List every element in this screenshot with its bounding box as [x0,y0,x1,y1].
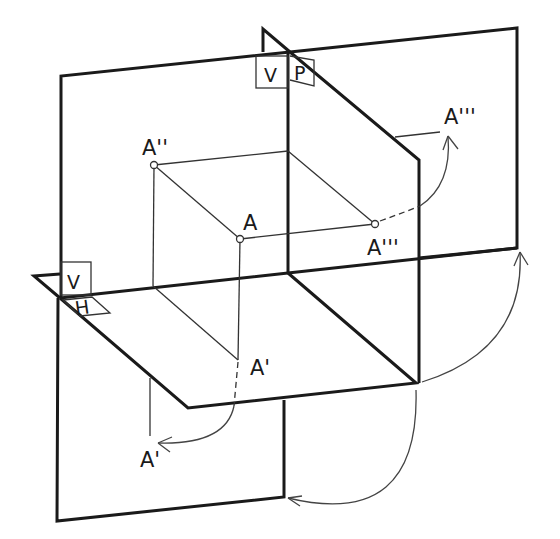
label-a: A [243,211,258,235]
proj-a-to-a1 [238,239,240,360]
label-a3: A''' [367,236,399,260]
proj-a3-rotated [395,132,440,137]
point-a2 [151,162,158,169]
point-a3 [372,221,379,228]
proj-a-to-a3 [240,224,375,239]
label-v-top: V [264,64,277,86]
label-a3-rotated: A''' [444,105,476,129]
label-a1-rotated: A' [140,448,160,472]
proj-a2-to-axis [154,151,288,165]
p-plane-outline [290,52,419,383]
dash-a3 [380,206,420,221]
lower-v-plane-outline [57,298,284,521]
h-plane-outline [34,274,60,298]
proj-a2-down [153,165,154,286]
proj-a2-to-a [154,165,240,239]
label-v-left: V [67,271,80,293]
arrowhead-a3 [443,136,458,150]
arrowhead-p-plane [514,252,528,266]
dash-a1 [234,362,238,406]
label-a1: A' [250,356,270,380]
proj-h-diagonal [153,286,238,360]
projection-diagram: V P V H A'' A A''' A''' A' A' [0,0,560,539]
label-h-left: H [73,296,90,320]
proj-axis-to-a3 [288,151,375,224]
arrow-rotate-p-plane [422,252,520,382]
arrow-rotate-h-plane [288,390,416,504]
label-a2: A'' [142,136,168,160]
label-p-top: P [294,62,305,84]
p-plane-peak [263,29,290,52]
point-a [237,236,244,243]
